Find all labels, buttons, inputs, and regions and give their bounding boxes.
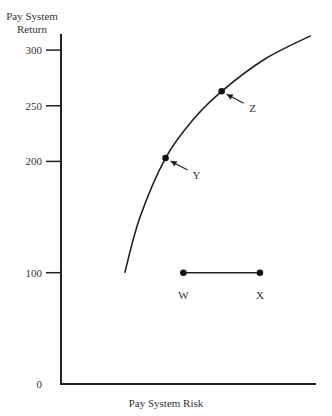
y-axis-label: Pay System Return bbox=[6, 10, 58, 35]
y-axis-label-line-1: Pay System bbox=[6, 10, 58, 22]
y-tick-label-0: 0 bbox=[37, 378, 43, 390]
y-tick-label-300: 300 bbox=[26, 44, 43, 56]
point-z-label: Z bbox=[249, 102, 256, 114]
series-layer bbox=[125, 36, 311, 273]
point-z bbox=[218, 88, 225, 95]
point-x-label: X bbox=[256, 289, 264, 301]
y-ticks: 0100200250300 bbox=[26, 44, 62, 390]
y-tick-label-250: 250 bbox=[26, 100, 43, 112]
y-tick-label-200: 200 bbox=[26, 155, 43, 167]
point-w bbox=[180, 269, 187, 276]
y-axis-label-line-2: Return bbox=[17, 23, 47, 35]
x-axis-label: Pay System Risk bbox=[129, 397, 204, 409]
point-y-label: Y bbox=[193, 169, 201, 181]
risk-return-chart: Pay System Return 0100200250300 WXYZ Pay… bbox=[0, 0, 332, 416]
y-tick-label-100: 100 bbox=[26, 267, 43, 279]
point-w-label: W bbox=[178, 289, 189, 301]
point-x bbox=[257, 269, 264, 276]
point-y bbox=[162, 155, 169, 162]
points-layer: WXYZ bbox=[162, 88, 264, 301]
frontier-curve bbox=[125, 36, 311, 273]
